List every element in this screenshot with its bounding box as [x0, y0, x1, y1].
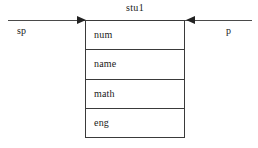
- arrow-left-icon: [186, 16, 195, 24]
- struct-box: num name math eng: [85, 20, 185, 138]
- diagram-canvas: stu1 sp p num name math eng: [0, 0, 258, 148]
- struct-name-label: stu1: [85, 3, 185, 13]
- struct-field-label: name: [94, 59, 116, 69]
- struct-field-row: eng: [86, 109, 184, 137]
- struct-field-label: math: [94, 89, 115, 99]
- pointer-label-sp: sp: [17, 26, 26, 36]
- struct-field-row: math: [86, 80, 184, 109]
- struct-field-label: eng: [94, 118, 109, 128]
- pointer-line-p: [185, 20, 252, 21]
- pointer-label-p: p: [226, 26, 231, 36]
- struct-field-row: num: [86, 21, 184, 50]
- struct-field-row: name: [86, 50, 184, 79]
- struct-field-label: num: [94, 30, 112, 40]
- pointer-line-sp: [8, 20, 86, 21]
